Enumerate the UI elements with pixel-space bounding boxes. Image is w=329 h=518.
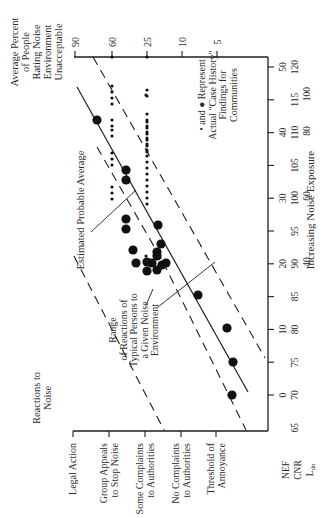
percent-axis-title: Average Percent	[9, 17, 20, 86]
percent-axis-title: Environment	[42, 25, 53, 80]
percent-axis-title: Unacceptable	[53, 23, 64, 80]
range-annotation: a Given Noise	[139, 301, 150, 359]
nef-tick-label: 20	[278, 259, 288, 269]
tick-dot	[110, 55, 113, 58]
large-dot	[121, 214, 130, 223]
small-dot	[145, 178, 148, 181]
small-dot	[110, 84, 113, 87]
estimated-average-label: Estimated Probable Average	[75, 150, 86, 269]
cnr-tick-label: 105	[290, 158, 300, 173]
legend-text: • and ● Represent	[196, 59, 207, 131]
large-dot	[142, 266, 151, 275]
reaction-label: Group Appeals	[98, 443, 109, 503]
large-dot	[121, 224, 130, 233]
legend-text: Actual "Case History"	[207, 50, 218, 139]
small-dot	[110, 90, 113, 93]
percent-tick-label: 90	[70, 37, 81, 47]
cnr-tick-label: 115	[290, 93, 300, 107]
large-dot	[121, 175, 130, 184]
small-dot	[110, 134, 113, 137]
cnr-tick-label: 110	[290, 125, 300, 139]
small-dot	[110, 118, 113, 121]
large-dot	[121, 165, 130, 174]
cnr-tick-label: 95	[290, 226, 300, 236]
small-dot	[145, 120, 148, 123]
large-dot	[128, 245, 137, 254]
range-annotation: of Reactions of	[118, 299, 129, 361]
small-dot	[145, 184, 148, 187]
large-dot	[152, 265, 161, 274]
range-annotation: Typical Persons to	[128, 293, 139, 367]
large-dot	[156, 239, 165, 248]
reaction-label: No Complaints	[170, 443, 181, 504]
reaction-label: to Authorities	[181, 443, 192, 498]
nef-tick-label: 10	[278, 324, 288, 334]
small-dot	[145, 150, 148, 153]
small-dot	[110, 124, 113, 127]
small-dot	[145, 88, 148, 91]
large-dot	[193, 290, 202, 299]
reactions-axis-title: Noise	[42, 385, 53, 410]
large-dot	[131, 258, 140, 267]
small-dot	[145, 196, 148, 199]
large-dot	[161, 258, 170, 267]
cnr-tick-label: 120	[290, 60, 300, 75]
cnr-tick-label: 85	[290, 292, 300, 302]
large-dot	[222, 323, 231, 332]
small-dot	[144, 254, 147, 257]
reaction-label: to Authorities	[145, 443, 156, 498]
nef-tick-label: 0	[278, 392, 288, 397]
range-annotation: Environment	[149, 304, 160, 356]
cnr-tick-label: 65	[290, 423, 300, 433]
estimated-average-line	[77, 87, 248, 392]
small-dot	[145, 172, 148, 175]
range-lower-line-lower-part	[163, 262, 246, 430]
percent-tick-label: 60	[107, 37, 118, 47]
ldn-tick-label: 80	[302, 126, 312, 136]
reaction-label: Annoyance	[216, 442, 227, 488]
small-dot	[145, 160, 148, 163]
percent-tick-label: 25	[142, 37, 153, 47]
cnr-tick-label: 100	[290, 191, 300, 206]
tick-dot	[145, 55, 148, 58]
reaction-label: Threshold of	[205, 442, 216, 494]
reaction-label: Legal Action	[67, 443, 78, 495]
small-dot	[110, 151, 113, 154]
percent-tick-label: 5	[212, 40, 223, 45]
cnr-tick-label: 80	[290, 324, 300, 334]
small-dot	[110, 191, 113, 194]
large-dot	[92, 115, 101, 124]
nef-tick-label: 30	[278, 193, 288, 203]
range-annotation: Range	[107, 317, 118, 343]
reactions-axis-title: Reactions to	[31, 372, 42, 424]
large-dot	[142, 257, 151, 266]
percent-axis-title: of People	[20, 32, 31, 72]
ldn-tick-label: 100	[302, 87, 312, 102]
cnr-label: CNR	[293, 460, 303, 480]
small-dot	[145, 144, 148, 147]
axis-ticks	[73, 51, 274, 437]
small-dot	[145, 166, 148, 169]
percent-axis-title: Rating Noise	[31, 24, 42, 79]
average-arrow	[91, 190, 136, 232]
cnr-tick-label: 70	[290, 390, 300, 400]
small-dot	[145, 112, 148, 115]
reaction-label: Some Complaints	[134, 443, 145, 515]
small-dot	[145, 202, 148, 205]
reaction-label: to Stop Noise	[109, 442, 120, 497]
small-dot	[110, 128, 113, 131]
small-dot	[145, 138, 148, 141]
small-dot	[145, 132, 148, 135]
ldn-label: Ldn	[305, 463, 316, 476]
noise-reaction-chart: 906025105Average Percentof PeopleRating …	[0, 0, 329, 518]
small-dot	[145, 154, 148, 157]
small-dot	[110, 197, 113, 200]
large-dot	[227, 390, 236, 399]
legend-text: Findings for	[217, 70, 228, 120]
small-dot	[110, 185, 113, 188]
large-dot	[152, 251, 161, 260]
small-dot	[145, 126, 148, 129]
range-lower-line-upper-part	[97, 147, 163, 262]
legend-text: Communities	[228, 68, 239, 122]
small-dot	[110, 157, 113, 160]
